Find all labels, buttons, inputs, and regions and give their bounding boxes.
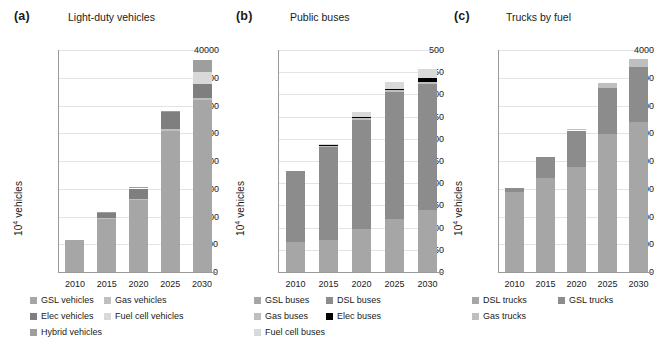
bar-segment[interactable] bbox=[65, 240, 84, 272]
bar-segment[interactable] bbox=[319, 147, 338, 239]
bar-segment[interactable] bbox=[161, 131, 180, 272]
bar-segment[interactable] bbox=[97, 218, 116, 219]
legend-item[interactable]: Elec buses bbox=[326, 312, 398, 321]
bar-segment[interactable] bbox=[385, 89, 404, 91]
bar-segment[interactable] bbox=[129, 200, 148, 272]
bar-2020[interactable] bbox=[567, 129, 586, 272]
legend-swatch-icon bbox=[472, 297, 479, 304]
bar-2025[interactable] bbox=[598, 83, 617, 272]
bar-segment[interactable] bbox=[418, 78, 437, 82]
bar-segment[interactable] bbox=[418, 84, 437, 210]
bar-segment[interactable] bbox=[319, 145, 338, 146]
legend-item[interactable]: Elec vehicles bbox=[30, 312, 104, 321]
panel-a-legend: GSL vehiclesGas vehiclesElec vehiclesFue… bbox=[0, 296, 258, 344]
bar-segment[interactable] bbox=[418, 210, 437, 272]
legend-item[interactable]: GSL buses bbox=[254, 296, 326, 305]
bar-segment[interactable] bbox=[505, 188, 524, 191]
bar-segment[interactable] bbox=[418, 69, 437, 79]
bar-segment[interactable] bbox=[536, 178, 555, 272]
bar-segment[interactable] bbox=[567, 129, 586, 131]
bar-segment[interactable] bbox=[385, 82, 404, 88]
bar-segment[interactable] bbox=[319, 146, 338, 147]
legend-item[interactable]: DSL trucks bbox=[472, 296, 558, 305]
x-axis-tick-label: 2010 bbox=[59, 279, 91, 289]
bar-segment[interactable] bbox=[536, 157, 555, 178]
bar-segment[interactable] bbox=[286, 242, 305, 272]
panel-b-ylabel-suffix: vehicles bbox=[235, 181, 246, 221]
bar-segment[interactable] bbox=[129, 189, 148, 200]
bar-segment[interactable] bbox=[161, 129, 180, 131]
bar-segment[interactable] bbox=[352, 229, 371, 272]
legend-item[interactable]: Fuel cell buses bbox=[254, 328, 326, 337]
bar-2015[interactable] bbox=[536, 157, 555, 272]
bar-segment[interactable] bbox=[193, 72, 212, 84]
bar-segment[interactable] bbox=[161, 111, 180, 113]
bar-segment[interactable] bbox=[598, 134, 617, 272]
x-axis-tick-label: 2030 bbox=[624, 279, 654, 289]
panel-a: (a) Light-duty vehicles 104 vehicles 050… bbox=[0, 0, 228, 363]
bar-2030[interactable] bbox=[193, 60, 212, 272]
bar-segment[interactable] bbox=[385, 92, 404, 219]
legend-item[interactable]: GSL vehicles bbox=[30, 296, 104, 305]
x-axis-tick-label: 2025 bbox=[593, 279, 623, 289]
bar-segment[interactable] bbox=[629, 67, 648, 123]
bar-2020[interactable] bbox=[129, 187, 148, 272]
bar-segment[interactable] bbox=[629, 122, 648, 272]
bar-segment[interactable] bbox=[567, 167, 586, 272]
figure-three-panel-bar-charts: (a) Light-duty vehicles 104 vehicles 050… bbox=[0, 0, 660, 363]
legend-item[interactable]: Fuel cell vehicles bbox=[104, 312, 178, 321]
legend-item[interactable]: Gas vehicles bbox=[104, 296, 178, 305]
bar-segment[interactable] bbox=[385, 90, 404, 92]
bar-segment[interactable] bbox=[97, 219, 116, 272]
bar-segment[interactable] bbox=[97, 213, 116, 219]
bar-segment[interactable] bbox=[319, 240, 338, 272]
legend-label: GSL vehicles bbox=[41, 296, 94, 305]
bar-2030[interactable] bbox=[629, 59, 648, 272]
bar-segment[interactable] bbox=[161, 112, 180, 129]
bar-segment[interactable] bbox=[629, 59, 648, 66]
legend-swatch-icon bbox=[30, 329, 37, 336]
legend-item[interactable]: DSL buses bbox=[326, 296, 398, 305]
panel-c-ylabel-prefix: 10 bbox=[453, 225, 464, 236]
legend-item[interactable]: GSL trucks bbox=[558, 296, 644, 305]
panel-b-ylabel: 104 vehicles bbox=[234, 181, 246, 236]
bar-2025[interactable] bbox=[385, 82, 404, 272]
x-axis-tick-label: 2015 bbox=[531, 279, 561, 289]
bar-segment[interactable] bbox=[352, 112, 371, 116]
bar-segment[interactable] bbox=[598, 83, 617, 88]
bar-segment[interactable] bbox=[193, 84, 212, 98]
x-axis-line bbox=[278, 272, 444, 273]
bar-2010[interactable] bbox=[65, 240, 84, 272]
bar-2015[interactable] bbox=[97, 212, 116, 272]
bar-segment[interactable] bbox=[193, 98, 212, 100]
panel-a-ylabel-exponent: 4 bbox=[12, 221, 19, 225]
bar-segment[interactable] bbox=[129, 187, 148, 189]
bar-2015[interactable] bbox=[319, 144, 338, 272]
bar-segment[interactable] bbox=[598, 88, 617, 135]
bar-segment[interactable] bbox=[385, 219, 404, 272]
bar-2025[interactable] bbox=[161, 111, 180, 273]
bar-segment[interactable] bbox=[352, 118, 371, 119]
bar-segment[interactable] bbox=[193, 100, 212, 272]
bar-segment[interactable] bbox=[286, 171, 305, 242]
bar-segment[interactable] bbox=[352, 120, 371, 229]
x-axis-tick-label: 2025 bbox=[154, 279, 186, 289]
bar-segment[interactable] bbox=[129, 199, 148, 200]
legend-item[interactable]: Gas buses bbox=[254, 312, 326, 321]
bar-segment[interactable] bbox=[193, 60, 212, 72]
bar-segment[interactable] bbox=[567, 131, 586, 167]
bar-2020[interactable] bbox=[352, 112, 371, 272]
legend-swatch-icon bbox=[254, 329, 261, 336]
bar-2010[interactable] bbox=[286, 171, 305, 272]
bar-segment[interactable] bbox=[505, 192, 524, 272]
x-axis-tick-label: 2015 bbox=[315, 279, 343, 289]
bar-2030[interactable] bbox=[418, 69, 437, 272]
bar-segment[interactable] bbox=[352, 117, 371, 119]
bar-segment[interactable] bbox=[319, 144, 338, 145]
bar-2010[interactable] bbox=[505, 188, 524, 272]
legend-item[interactable]: Gas trucks bbox=[472, 312, 558, 321]
bar-segment[interactable] bbox=[418, 82, 437, 84]
bar-segment[interactable] bbox=[97, 212, 116, 213]
legend-item[interactable]: Hybrid vehicles bbox=[30, 328, 104, 337]
legend-row: Hybrid vehicles bbox=[30, 328, 258, 337]
